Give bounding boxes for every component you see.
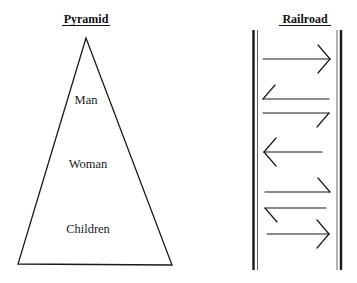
arrow-barb-lower xyxy=(317,234,329,248)
arrow-right-3 xyxy=(263,113,329,127)
pyramid-level-children: Children xyxy=(66,222,110,236)
arrow-barb-upper xyxy=(318,178,330,192)
pyramid-diagram: Pyramid Man Woman Children xyxy=(18,12,172,265)
railroad-arrows xyxy=(263,45,330,248)
arrow-left-4 xyxy=(264,138,322,166)
railroad-title: Railroad xyxy=(282,12,327,26)
arrow-barb-lower xyxy=(264,152,276,166)
arrow-barb-upper xyxy=(318,45,330,59)
arrow-barb-lower xyxy=(318,59,330,73)
arrow-barb-upper xyxy=(263,85,275,99)
railroad-diagram: Railroad xyxy=(254,12,342,270)
diagram-canvas: Pyramid Man Woman Children Railroad xyxy=(0,0,357,283)
arrow-barb-lower xyxy=(265,208,277,222)
pyramid-title: Pyramid xyxy=(64,12,109,26)
arrow-right-1 xyxy=(263,45,330,73)
arrow-barb-upper xyxy=(317,220,329,234)
pyramid-level-man: Man xyxy=(75,93,99,107)
arrow-barb-lower xyxy=(317,113,329,127)
arrow-barb-upper xyxy=(264,138,276,152)
pyramid-level-woman: Woman xyxy=(69,157,108,171)
arrow-right-5 xyxy=(265,178,330,192)
arrow-right-7 xyxy=(267,220,329,248)
arrow-left-2 xyxy=(263,85,329,99)
